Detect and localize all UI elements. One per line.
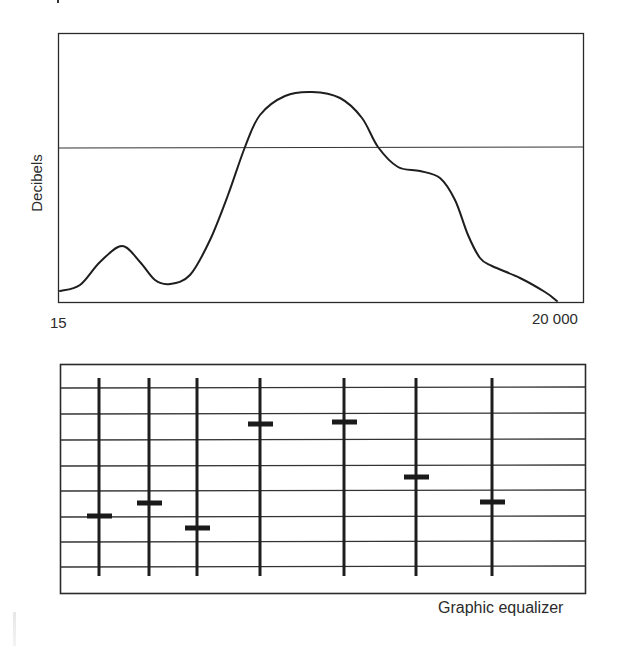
equalizer-gridline — [61, 516, 585, 517]
slider-knob[interactable] — [404, 475, 429, 480]
graphic-equalizer — [61, 365, 586, 594]
equalizer-slider-1[interactable] — [87, 378, 112, 576]
equalizer-sliders — [87, 378, 505, 576]
figure: Decibels 15 20 000 Graphic equalizer — [0, 0, 619, 649]
equalizer-gridline — [61, 541, 585, 542]
equalizer-gridline — [61, 490, 585, 491]
equalizer-slider-2[interactable] — [137, 378, 162, 576]
slider-knob[interactable] — [137, 501, 162, 506]
slider-knob[interactable] — [332, 420, 357, 425]
x-axis-min-label: 15 — [50, 314, 67, 331]
equalizer-gridline — [61, 387, 585, 388]
figure-canvas — [0, 0, 619, 649]
x-axis-max-label: 20 000 — [532, 310, 578, 327]
equalizer-frame — [61, 365, 586, 594]
equalizer-gridline — [61, 439, 585, 440]
equalizer-slider-7[interactable] — [480, 378, 505, 576]
slider-knob[interactable] — [248, 422, 273, 427]
equalizer-slider-4[interactable] — [248, 378, 273, 576]
slider-knob[interactable] — [185, 526, 210, 531]
equalizer-slider-6[interactable] — [404, 378, 429, 576]
equalizer-slider-3[interactable] — [185, 378, 210, 576]
reference-line — [59, 147, 583, 148]
frequency-response-chart — [59, 34, 584, 303]
y-axis-label: Decibels — [28, 154, 45, 212]
response-curve — [60, 92, 557, 301]
slider-knob[interactable] — [480, 500, 505, 505]
equalizer-gridline — [61, 566, 585, 567]
equalizer-gridline — [61, 413, 585, 414]
equalizer-gridline — [61, 465, 585, 466]
slider-knob[interactable] — [87, 514, 112, 519]
equalizer-gridlines — [61, 387, 585, 567]
equalizer-slider-5[interactable] — [332, 378, 357, 576]
equalizer-caption: Graphic equalizer — [438, 599, 563, 617]
plot-frame — [59, 34, 584, 303]
